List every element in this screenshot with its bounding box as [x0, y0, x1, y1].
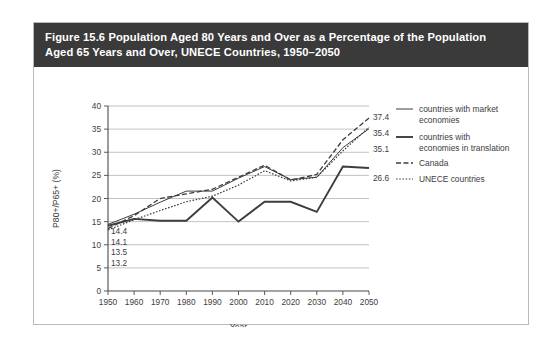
line-chart: 0510152025303540195019601970198019902000…: [34, 67, 528, 327]
start-value-label: 14.1: [111, 237, 128, 247]
start-value-label: 14.4: [111, 226, 128, 236]
y-axis-title: P80+/P65+ (%): [51, 169, 61, 228]
legend-label: Canada: [419, 158, 449, 168]
x-axis-title: Year: [230, 322, 248, 327]
x-tick-label: 1970: [151, 297, 170, 307]
x-tick-label: 1990: [203, 297, 222, 307]
start-value-label: 13.5: [111, 247, 128, 257]
legend-label: economies in translation: [419, 143, 510, 153]
legend-label: countries with market: [419, 104, 499, 114]
start-value-label: 13.2: [111, 258, 128, 268]
figure-title: Figure 15.6 Population Aged 80 Years and…: [34, 23, 528, 67]
y-tick-label: 30: [92, 147, 102, 157]
end-value-label: 26.6: [373, 173, 390, 183]
x-tick-label: 2050: [360, 297, 379, 307]
legend-label: countries with: [419, 132, 471, 142]
y-tick-label: 15: [92, 217, 102, 227]
x-tick-label: 1950: [99, 297, 118, 307]
x-tick-label: 2030: [308, 297, 327, 307]
y-tick-label: 5: [96, 263, 101, 273]
legend-label: economies: [419, 115, 460, 125]
y-tick-label: 40: [92, 101, 102, 111]
end-value-label: 37.4: [373, 112, 390, 122]
series-line: [108, 118, 369, 229]
y-tick-label: 35: [92, 124, 102, 134]
figure-container: Figure 15.6 Population Aged 80 Years and…: [33, 22, 529, 325]
x-tick-label: 2000: [229, 297, 248, 307]
y-tick-label: 20: [92, 194, 102, 204]
y-tick-label: 0: [96, 286, 101, 296]
y-tick-label: 25: [92, 171, 102, 181]
y-tick-label: 10: [92, 240, 102, 250]
end-value-label: 35.1: [373, 144, 390, 154]
x-tick-label: 2020: [281, 297, 300, 307]
series-line: [108, 129, 369, 225]
end-value-label: 35.4: [373, 128, 390, 138]
legend-label: UNECE countries: [419, 174, 485, 184]
x-tick-label: 1980: [177, 297, 196, 307]
x-tick-label: 2040: [334, 297, 353, 307]
chart-area: 0510152025303540195019601970198019902000…: [34, 67, 528, 327]
x-tick-label: 2010: [255, 297, 274, 307]
x-tick-label: 1960: [125, 297, 144, 307]
